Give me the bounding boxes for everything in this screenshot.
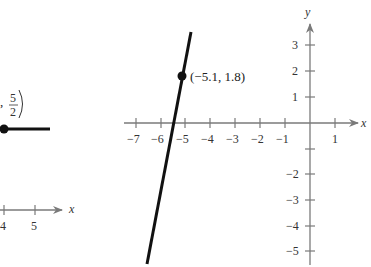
left-fraction-denominator: 2 [10,105,16,119]
left-filled-endpoint [0,125,9,134]
x-tick-label-m7: −7 [127,132,140,146]
right-y-axis-label: y [304,5,311,19]
left-label-close-paren [19,90,23,118]
left-label-comma: , [0,94,3,109]
x-tick-label-m1: −1 [276,132,289,146]
right-highlighted-point [178,72,187,81]
y-tick-label-2: 2 [292,64,298,78]
y-tick-label-m3: −3 [286,193,299,207]
left-fraction-numerator: 5 [10,91,16,105]
left-tick-label-5: 5 [31,219,37,233]
x-tick-label-m4: −4 [201,132,214,146]
x-tick-label-m2: −2 [251,132,264,146]
right-x-axis-label: x [360,116,367,130]
y-tick-label-m2: −2 [286,167,299,181]
left-point-label: , 5 2 [0,90,23,119]
left-graph-panel: 4 5 x , 5 2 [0,90,75,233]
x-tick-label-1: 1 [332,132,338,146]
left-x-axis-label: x [68,202,75,216]
x-tick-label-m6: −6 [151,132,164,146]
x-tick-label-m3: −3 [226,132,239,146]
right-steep-line [147,32,191,264]
y-tick-label-3: 3 [292,38,298,52]
y-tick-label-1: 1 [292,90,298,104]
left-tick-label-4: 4 [0,219,6,233]
x-tick-label-m5: −5 [176,132,189,146]
y-tick-label-m5: −5 [286,244,299,258]
y-tick-label-m4: −4 [286,219,299,233]
figure-canvas: 4 5 x , 5 2 x y [0,0,371,267]
right-point-label: (−5.1, 1.8) [190,69,245,84]
right-graph-panel: x y −7 −6 −5 −4 −3 −2 −1 1 [124,5,367,265]
